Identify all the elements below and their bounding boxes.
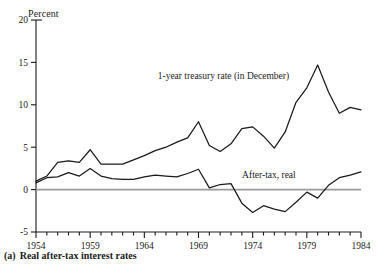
x-axis-tick-label: 1974 [243,241,262,251]
x-axis-tick-label: 1964 [135,241,154,251]
y-axis-tick-label: 0 [23,185,28,195]
line-chart-plot: -505101520 1954195919641969197419791984 … [0,0,377,268]
y-axis-tick-label: 5 [23,143,28,153]
series-annotations: 1-year treasury rate (in December)After-… [158,71,296,179]
figure-real-after-tax-interest-rates: Percent -505101520 195419591964196919741… [0,0,377,268]
y-axis-tick-label: 20 [19,15,29,25]
x-axis-tick-label: 1969 [189,241,208,251]
series-label: 1-year treasury rate (in December) [158,71,289,82]
series-line [36,65,361,181]
y-axis: -505101520 [19,15,43,237]
x-axis-tick-label: 1979 [297,241,316,251]
figure-caption: (a)Real after-tax interest rates [4,249,137,262]
caption-text: Real after-tax interest rates [20,250,137,261]
caption-number: (a) [4,250,16,261]
y-axis-tick-label: -5 [20,227,28,237]
y-axis-tick-label: 10 [19,100,29,110]
series-label: After-tax, real [242,170,296,180]
y-axis-tick-label: 15 [19,58,29,68]
x-axis-tick-label: 1984 [352,241,371,251]
series-line [36,168,361,212]
